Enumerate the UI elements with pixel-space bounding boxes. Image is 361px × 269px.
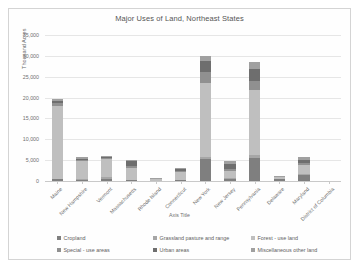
- plot-area: 05,00010,00015,00020,00025,00030,00035,0…: [45, 35, 341, 181]
- bar-segment[interactable]: [224, 171, 235, 178]
- x-axis-tick: [107, 181, 108, 184]
- bar-segment[interactable]: [200, 159, 211, 181]
- bar-stack[interactable]: [76, 157, 87, 181]
- legend-swatch: [251, 236, 255, 240]
- x-axis-tick: [329, 181, 330, 184]
- bar-segment[interactable]: [200, 61, 211, 72]
- legend-item[interactable]: Cropland: [57, 235, 153, 241]
- x-axis-tick: [156, 181, 157, 184]
- bar-segment[interactable]: [101, 159, 112, 177]
- x-axis-tick: [304, 181, 305, 184]
- bar-stack[interactable]: [224, 161, 235, 181]
- x-axis-tick: [57, 181, 58, 184]
- x-axis-tick: [279, 181, 280, 184]
- bar-segment[interactable]: [76, 161, 87, 179]
- legend-label: Miscellaneous other land: [258, 247, 318, 253]
- y-axis-tick-label: 20,000: [3, 95, 39, 101]
- bar-segment[interactable]: [249, 81, 260, 90]
- plot-canvas: [45, 35, 341, 181]
- bar-stack[interactable]: [298, 157, 309, 181]
- chart-container: Major Uses of Land, Northeast States Tho…: [8, 8, 351, 260]
- bar-stack[interactable]: [175, 168, 186, 181]
- legend-label: Special - use areas: [64, 247, 110, 253]
- x-axis-tick: [131, 181, 132, 184]
- gridline: [45, 56, 341, 57]
- legend-item[interactable]: Special - use areas: [57, 247, 153, 253]
- bar-stack[interactable]: [52, 99, 63, 181]
- legend-label: Cropland: [64, 235, 86, 241]
- y-axis-tick-label: 35,000: [3, 32, 39, 38]
- bar-stack[interactable]: [126, 160, 137, 181]
- legend-item[interactable]: Forest - use land: [251, 235, 317, 241]
- gridline: [45, 118, 341, 119]
- legend-label: Grassland pasture and range: [160, 235, 230, 241]
- chart-title: Major Uses of Land, Northeast States: [9, 14, 350, 23]
- legend-item[interactable]: Grassland pasture and range: [153, 235, 251, 241]
- legend-item[interactable]: Urban areas: [153, 247, 251, 253]
- gridline: [45, 139, 341, 140]
- bar-segment[interactable]: [200, 83, 211, 157]
- bar-segment[interactable]: [249, 158, 260, 181]
- legend-label: Urban areas: [160, 247, 190, 253]
- bar-segment[interactable]: [249, 69, 260, 81]
- legend-swatch: [57, 236, 61, 240]
- bar-segment[interactable]: [200, 72, 211, 82]
- bar-stack[interactable]: [101, 156, 112, 181]
- legend-swatch: [153, 236, 157, 240]
- gridline: [45, 160, 341, 161]
- y-axis-tick-label: 15,000: [3, 115, 39, 121]
- gridline: [45, 35, 341, 36]
- legend-swatch: [251, 248, 255, 252]
- bar-segment[interactable]: [249, 90, 260, 155]
- legend-item[interactable]: Miscellaneous other land: [251, 247, 317, 253]
- chart-legend: CroplandGrassland pasture and rangeFores…: [57, 235, 307, 253]
- bar-segment[interactable]: [126, 168, 137, 180]
- y-axis-tick-label: 10,000: [3, 136, 39, 142]
- x-axis-line: [45, 181, 341, 182]
- y-axis-tick-label: 0: [3, 178, 39, 184]
- x-axis-label: Maine: [21, 186, 63, 228]
- gridline: [45, 98, 341, 99]
- gridline: [45, 77, 341, 78]
- legend-swatch: [57, 248, 61, 252]
- legend-swatch: [153, 248, 157, 252]
- bar-stack[interactable]: [200, 56, 211, 181]
- legend-label: Forest - use land: [258, 235, 298, 241]
- bar-stack[interactable]: [249, 62, 260, 181]
- bar-segment[interactable]: [175, 172, 186, 180]
- bar-segment[interactable]: [52, 106, 63, 179]
- x-axis-tick: [82, 181, 83, 184]
- y-axis-tick-label: 5,000: [3, 157, 39, 163]
- x-axis-tick: [230, 181, 231, 184]
- bar-segment[interactable]: [298, 165, 309, 175]
- y-axis-tick-label: 30,000: [3, 53, 39, 59]
- bar-segment[interactable]: [249, 62, 260, 70]
- x-axis-tick: [255, 181, 256, 184]
- y-axis-tick-label: 25,000: [3, 74, 39, 80]
- x-axis-tick: [181, 181, 182, 184]
- x-axis-tick: [205, 181, 206, 184]
